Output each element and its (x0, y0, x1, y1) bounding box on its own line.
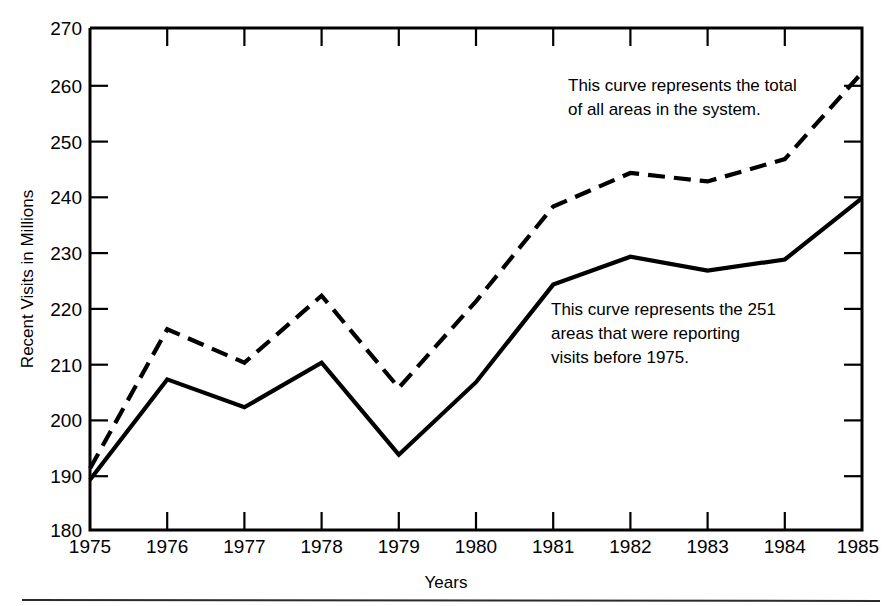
x-tick-label: 1982 (609, 536, 651, 557)
y-axis-ticks (90, 86, 108, 476)
x-tick-label: 1984 (764, 536, 807, 557)
x-tick-label: 1976 (146, 536, 188, 557)
x-tick-label: 1975 (69, 536, 111, 557)
y-tick-label: 200 (50, 410, 82, 431)
x-tick-label: 1985 (837, 536, 879, 557)
chart-figure: 270 260 250 240 230 220 210 200 190 180 … (0, 0, 892, 606)
y-tick-label: 220 (50, 299, 82, 320)
y-tick-label: 210 (50, 355, 82, 376)
series-total-all-areas (90, 73, 862, 469)
bottom-rule (22, 600, 880, 601)
x-tick-label: 1981 (532, 536, 574, 557)
y-tick-labels: 270 260 250 240 230 220 210 200 190 180 (50, 18, 82, 541)
annotation-reporting-areas-line1: This curve represents the 251 (551, 300, 776, 319)
x-tick-labels: 1975 1976 1977 1978 1979 1980 1981 1982 … (69, 536, 879, 557)
y-axis-right-ticks (844, 86, 862, 476)
y-tick-label: 260 (50, 76, 82, 97)
annotation-total-curve: This curve represents the total of all a… (568, 76, 797, 119)
y-tick-label: 240 (50, 187, 82, 208)
x-axis-top-ticks (167, 28, 785, 46)
y-tick-label: 190 (50, 466, 82, 487)
y-axis-title: Recent Visits in Millions (18, 190, 37, 368)
x-axis-bottom-ticks (167, 512, 785, 530)
x-tick-label: 1979 (378, 536, 420, 557)
annotation-total-curve-line2: of all areas in the system. (568, 100, 761, 119)
x-tick-label: 1983 (686, 536, 728, 557)
x-tick-label: 1978 (300, 536, 342, 557)
line-chart: 270 260 250 240 230 220 210 200 190 180 … (0, 0, 892, 606)
annotation-reporting-areas-line2: areas that were reporting (551, 324, 740, 343)
y-tick-label: 270 (50, 18, 82, 39)
x-axis-title: Years (425, 573, 468, 592)
annotation-total-curve-line1: This curve represents the total (568, 76, 797, 95)
y-tick-label: 250 (50, 132, 82, 153)
series-251-reporting-areas (90, 198, 862, 480)
x-tick-label: 1980 (455, 536, 497, 557)
x-tick-label: 1977 (223, 536, 265, 557)
annotation-reporting-areas-line3: visits before 1975. (551, 348, 689, 367)
y-tick-label: 230 (50, 243, 82, 264)
annotation-reporting-areas: This curve represents the 251 areas that… (551, 300, 776, 367)
